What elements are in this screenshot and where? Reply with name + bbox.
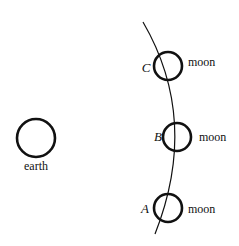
moon-a-circle bbox=[154, 194, 182, 222]
moon-c-letter: C bbox=[142, 60, 151, 75]
moon-b-circle bbox=[163, 123, 191, 151]
earth-circle bbox=[17, 119, 55, 157]
moon-b-letter: B bbox=[154, 129, 162, 144]
moon-a-label: moon bbox=[188, 202, 215, 216]
moon-a-letter: A bbox=[140, 201, 149, 216]
moon-b-label: moon bbox=[199, 130, 226, 144]
moon-c-circle bbox=[154, 52, 182, 80]
earth-label: earth bbox=[24, 159, 48, 173]
earth-moon-diagram: earth C moon B moon A moon bbox=[0, 0, 239, 246]
moon-c-label: moon bbox=[188, 55, 215, 69]
